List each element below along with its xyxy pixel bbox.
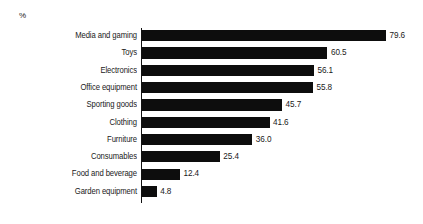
bar	[142, 117, 270, 128]
category-label: Office equipment	[0, 82, 137, 93]
bar-row: Media and gaming79.6	[0, 28, 423, 45]
bar-value-label: 79.6	[390, 30, 406, 41]
bar-row: Electronics56.1	[0, 63, 423, 80]
bar-value-label: 41.6	[273, 117, 289, 128]
category-label: Media and gaming	[0, 30, 137, 41]
bar-row: Clothing41.6	[0, 115, 423, 132]
bar	[142, 82, 313, 93]
bar	[142, 186, 157, 197]
category-label: Sporting goods	[0, 99, 137, 110]
bar-row: Consumables25.4	[0, 149, 423, 166]
bar	[142, 47, 327, 58]
bar-row: Food and beverage12.4	[0, 166, 423, 183]
bar-value-label: 4.8	[160, 186, 171, 197]
bar-row: Office equipment55.8	[0, 80, 423, 97]
category-label: Clothing	[0, 117, 137, 128]
category-label: Furniture	[0, 134, 137, 145]
bar-row: Toys60.5	[0, 45, 423, 62]
bar-row: Garden equipment4.8	[0, 184, 423, 201]
plot-area: Media and gaming79.6Toys60.5Electronics5…	[0, 28, 423, 204]
bar-value-label: 25.4	[223, 151, 239, 162]
bar-value-label: 12.4	[184, 168, 200, 179]
bar-row: Sporting goods45.7	[0, 97, 423, 114]
bar-value-label: 36.0	[256, 134, 272, 145]
bar	[142, 134, 252, 145]
bar-value-label: 45.7	[286, 99, 302, 110]
bar-value-label: 60.5	[331, 47, 347, 58]
axis-unit-label: %	[19, 11, 26, 21]
category-label: Consumables	[0, 151, 137, 162]
bar-chart: % Media and gaming79.6Toys60.5Electronic…	[0, 0, 423, 224]
bar	[142, 151, 220, 162]
category-label: Electronics	[0, 65, 137, 76]
bar-value-label: 55.8	[317, 82, 333, 93]
bar-row: Furniture36.0	[0, 132, 423, 149]
category-label: Garden equipment	[0, 186, 137, 197]
bar	[142, 99, 282, 110]
bar-value-label: 56.1	[317, 65, 333, 76]
category-label: Toys	[0, 47, 137, 58]
bar	[142, 30, 386, 41]
bar	[142, 169, 180, 180]
bar	[142, 65, 314, 76]
category-label: Food and beverage	[0, 168, 137, 179]
